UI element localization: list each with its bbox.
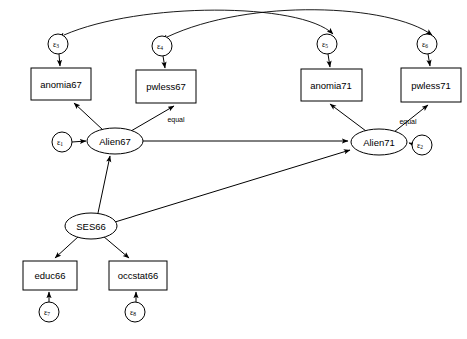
latent-node-ses66[interactable]: SES66 [65,213,117,239]
path-e6-pwless71 [428,54,430,66]
error-node-e2[interactable]: ε2 [412,135,432,155]
e2-subscript: 2 [420,144,423,150]
occstat66-label: occstat66 [118,270,159,281]
anomia71-label: anomia71 [310,80,352,91]
error-node-e4[interactable]: ε4 [152,36,172,56]
e6-subscript: 6 [425,43,428,49]
sem-path-diagram: anomia67 pwless67 anomia71 pwless71 educ… [0,0,467,339]
educ66-label: educ66 [34,270,65,281]
observed-node-anomia67[interactable]: anomia67 [31,68,91,100]
e5-subscript: 5 [325,43,328,49]
path-ses66-occstat66 [103,236,129,258]
path-e1-alien67 [72,141,86,142]
error-node-e5[interactable]: ε5 [317,34,337,54]
path-alien67-anomia67 [74,103,103,130]
edge-labels: equal equal [167,116,417,126]
observed-variables: anomia67 pwless67 anomia71 pwless71 educ… [23,68,461,290]
pwless71-label: pwless71 [411,80,451,91]
error-node-e8[interactable]: ε8 [125,302,145,322]
e3-subscript: 3 [56,43,59,49]
observed-node-anomia71[interactable]: anomia71 [301,69,362,101]
path-ses66-educ66 [55,236,79,258]
structural-paths [98,141,350,222]
path-e2-alien71 [409,143,412,144]
path-e4-pwless67 [163,56,165,68]
observed-node-occstat66[interactable]: occstat66 [109,261,167,290]
path-ses66-alien67 [98,156,110,213]
error-paths [49,54,430,302]
latent-node-alien67[interactable]: Alien67 [87,128,143,154]
diagram-canvas: anomia67 pwless67 anomia71 pwless71 educ… [0,0,467,339]
latent-node-alien71[interactable]: Alien71 [351,129,407,155]
error-node-e1[interactable]: ε1 [52,132,72,152]
alien71-label: Alien71 [363,137,395,148]
error-node-e7[interactable]: ε7 [39,302,59,322]
e8-subscript: 8 [133,311,136,317]
correlated-error-arc-e3-e5 [64,10,333,35]
e7-subscript: 7 [47,311,50,317]
path-e3-anomia67 [59,54,60,66]
ses66-label: SES66 [76,221,106,232]
correlated-error-arc-e4-e6 [167,10,432,37]
edge-label-equal-71: equal [399,118,417,126]
error-terms: ε1 ε2 ε3 ε4 ε5 ε6 [39,34,437,322]
error-node-e6[interactable]: ε6 [417,34,437,54]
e1-subscript: 1 [60,141,63,147]
error-node-e3[interactable]: ε3 [48,34,68,54]
edge-label-equal-67: equal [167,116,185,124]
e4-subscript: 4 [160,45,163,51]
correlated-error-arcs [64,10,432,37]
pwless67-label: pwless67 [146,81,186,92]
latent-variables: Alien67 Alien71 SES66 [65,128,407,239]
observed-node-pwless67[interactable]: pwless67 [136,70,196,103]
anomia67-label: anomia67 [40,79,82,90]
observed-node-pwless71[interactable]: pwless71 [401,68,461,102]
path-alien71-anomia71 [330,104,366,131]
path-ses66-alien71 [115,150,350,222]
alien67-label: Alien67 [99,136,131,147]
path-e5-anomia71 [328,54,330,67]
observed-node-educ66[interactable]: educ66 [23,261,77,290]
